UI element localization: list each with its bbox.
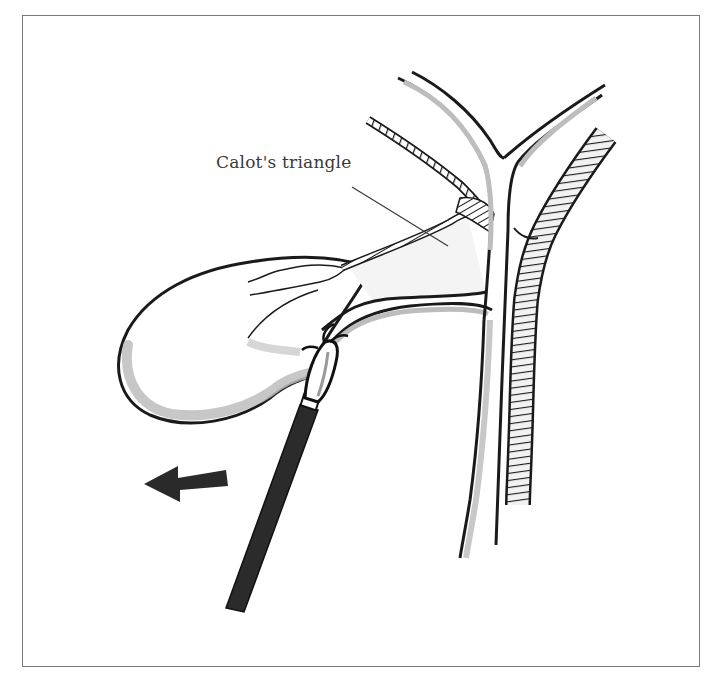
traction-arrow [144, 466, 228, 502]
calots-triangle-label: Calot's triangle [216, 152, 352, 172]
common-hepatic-duct [398, 72, 605, 558]
label-leader-line [352, 187, 448, 246]
illustration [0, 0, 722, 682]
hepatic-artery [514, 135, 606, 505]
